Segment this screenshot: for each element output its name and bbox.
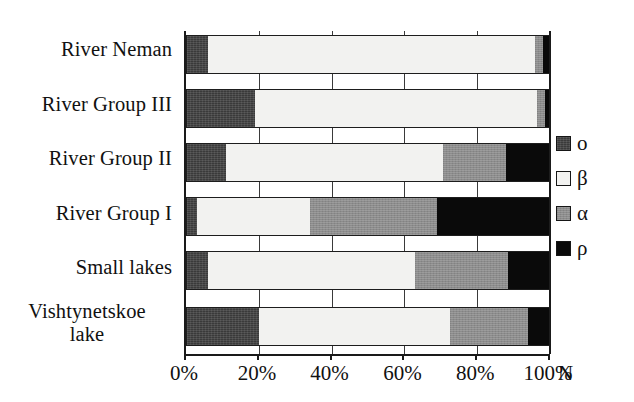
gridline-20: [259, 31, 260, 354]
bar-segment-beta: [255, 89, 537, 128]
category-label-river-group-i: River Group I: [0, 202, 172, 225]
gridline-80: [477, 31, 478, 354]
x-tick-label-60: 60%: [367, 360, 437, 386]
x-tick-label-100: 100%: [505, 360, 591, 386]
category-label-river-neman: River Neman: [0, 38, 172, 61]
bar-segment-o: [186, 197, 197, 236]
legend-swatch-rho-icon: [556, 241, 571, 256]
gridline-40: [332, 31, 333, 354]
legend-label-alpha: α: [577, 203, 588, 224]
legend-item-alpha: α: [556, 196, 634, 231]
bar-segment-alpha: [415, 251, 508, 290]
bar-segment-o: [186, 35, 208, 74]
category-label-river-group-ii: River Group II: [0, 147, 172, 170]
legend-swatch-beta-icon: [556, 171, 571, 186]
legend-label-o: o: [577, 133, 588, 154]
bar-segment-o: [186, 89, 255, 128]
category-label-river-group-iii: River Group III: [0, 93, 172, 116]
bar-segment-rho: [543, 35, 550, 74]
category-label-small-lakes: Small lakes: [0, 256, 172, 279]
table-row: [186, 143, 550, 182]
category-label-vishtynetskoe-lake-line2: lake: [0, 323, 174, 346]
legend-label-rho: ρ: [577, 238, 587, 259]
x-axis-title: N: [558, 360, 573, 386]
y-axis-category-labels: River Neman River Group III River Group …: [0, 0, 178, 355]
bar-segment-alpha: [450, 307, 528, 346]
bar-segment-o: [186, 143, 226, 182]
bar-segment-beta: [259, 307, 450, 346]
bar-segment-alpha: [443, 143, 507, 182]
x-tick-label-80: 80%: [440, 360, 510, 386]
stacked-bar-chart: River Neman River Group III River Group …: [0, 0, 634, 402]
bar-segment-rho: [508, 251, 550, 290]
x-axis-line: [184, 354, 550, 356]
table-row: [186, 197, 550, 236]
gridline-60: [404, 31, 405, 354]
bar-segment-alpha: [310, 197, 437, 236]
legend-swatch-o-icon: [556, 136, 571, 151]
bar-segment-beta: [208, 251, 415, 290]
bar-segment-rho: [506, 143, 550, 182]
table-row: [186, 251, 550, 290]
table-row: [186, 35, 550, 74]
x-tick-label-20: 20%: [222, 360, 292, 386]
category-label-vishtynetskoe-lake-line1: Vishtynetskoe: [28, 300, 145, 322]
x-tick-label-0: 0%: [154, 360, 214, 386]
bar-segment-rho: [528, 307, 550, 346]
legend: o β α ρ: [556, 126, 634, 266]
bar-segment-o: [186, 251, 208, 290]
bar-segment-rho: [437, 197, 550, 236]
legend-item-o: o: [556, 126, 634, 161]
bar-segment-alpha: [535, 35, 542, 74]
bar-segment-o: [186, 307, 259, 346]
table-row: [186, 307, 550, 346]
x-tick-label-40: 40%: [295, 360, 365, 386]
table-row: [186, 89, 550, 128]
x-axis-tick-labels: 0% 20% 40% 60% 80% 100%: [0, 360, 634, 396]
bar-segment-beta: [208, 35, 536, 74]
gridline-100: [549, 31, 551, 354]
category-label-vishtynetskoe-lake: Vishtynetskoe lake: [0, 300, 174, 346]
legend-label-beta: β: [577, 168, 588, 189]
legend-swatch-alpha-icon: [556, 206, 571, 221]
bar-segment-rho: [545, 89, 550, 128]
bar-segment-alpha: [537, 89, 544, 128]
plot-area: [184, 31, 550, 354]
bar-segment-beta: [226, 143, 443, 182]
bar-segment-beta: [197, 197, 310, 236]
legend-item-rho: ρ: [556, 231, 634, 266]
legend-item-beta: β: [556, 161, 634, 196]
